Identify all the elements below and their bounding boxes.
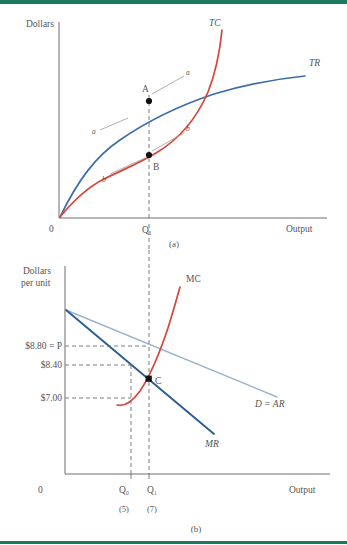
point-a-marker xyxy=(146,98,152,104)
curve-d-ar xyxy=(66,310,277,397)
point-label-b: B xyxy=(153,162,159,172)
panel-b-marginal-analysis: Dollars per unit $8.80 = P $8.40 $7.00 M… xyxy=(0,250,347,541)
curve-label-tc: TC xyxy=(209,18,221,28)
curve-tr xyxy=(60,76,305,217)
point-label-a: A xyxy=(142,84,149,94)
panel-a-total-revenue-total-cost: Dollars TC TR A B a a b b 0 Q₁ Output (a… xyxy=(0,4,347,250)
price-label-880: $8.80 = P xyxy=(25,341,62,351)
tangent-a-right xyxy=(152,76,184,94)
bottom-green-rule xyxy=(0,541,347,544)
point-c-marker xyxy=(146,376,152,382)
panel-a-caption: (a) xyxy=(169,239,179,249)
panel-b-caption: (b) xyxy=(191,524,202,534)
curve-label-tr: TR xyxy=(309,58,320,68)
panel-b-x-tick-q0: Q₀ xyxy=(119,485,129,495)
tangent-a-left xyxy=(100,118,128,130)
panel-b-y-axis-label-line1: Dollars xyxy=(23,266,51,276)
panel-a-x-tick-q1: Q₁ xyxy=(142,225,152,235)
panel-a-y-axis-label: Dollars xyxy=(26,19,54,29)
tangent-b-right xyxy=(152,133,184,151)
panel-b-origin-label: 0 xyxy=(38,485,43,495)
curve-label-d-ar: D = AR xyxy=(254,399,285,409)
point-b-marker xyxy=(146,152,152,158)
price-label-840: $8.40 xyxy=(41,360,63,370)
curve-mr xyxy=(66,310,214,434)
panel-b-y-axis-label-line2: per unit xyxy=(21,278,51,288)
panel-a-origin-label: 0 xyxy=(49,224,54,234)
curve-label-mc: MC xyxy=(186,274,201,284)
slope-label-a-left: a xyxy=(92,127,96,136)
slope-label-a-right: a xyxy=(186,68,190,77)
slope-label-b-right: b xyxy=(186,124,190,133)
panel-b-quantity-q1: (7) xyxy=(147,504,157,514)
curve-mc xyxy=(117,287,180,405)
point-label-c: C xyxy=(155,376,161,386)
panel-a-x-axis-label: Output xyxy=(286,224,313,234)
panel-b-x-axis-label: Output xyxy=(289,485,316,495)
curve-label-mr: MR xyxy=(204,439,219,449)
panel-b-x-tick-q1: Q₁ xyxy=(147,485,157,495)
price-label-700: $7.00 xyxy=(41,393,63,403)
panel-b-quantity-q0: (5) xyxy=(119,504,129,514)
slope-label-b-left: b xyxy=(102,175,106,184)
curve-tc xyxy=(60,30,222,217)
tangent-b-left xyxy=(110,158,145,174)
